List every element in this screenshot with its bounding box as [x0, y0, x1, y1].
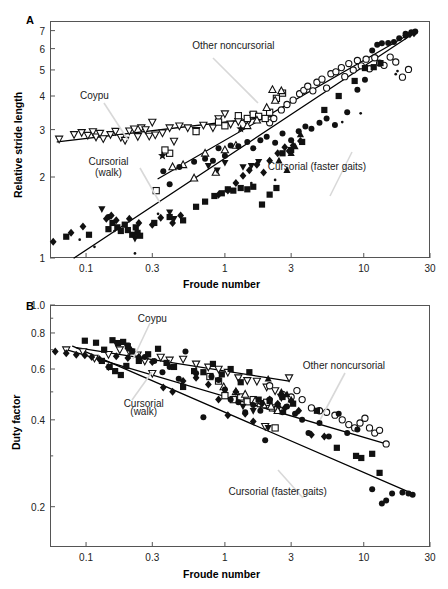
figure-root: A 0.10.31310301234567 Relative stride le… — [0, 0, 448, 589]
panel-b-data-layer — [0, 0, 448, 589]
y-tick-label: 0.6 — [20, 364, 45, 375]
plot-annotation: (walk) — [130, 406, 157, 418]
y-tick-label: 0.4 — [20, 414, 45, 425]
y-tick-label: 1.0 — [20, 300, 45, 311]
x-tick-label: 1 — [222, 552, 228, 563]
plot-annotation: Coypu — [138, 313, 167, 325]
x-tick-label: 10 — [358, 552, 369, 563]
y-tick-label: 0.8 — [20, 327, 45, 338]
x-tick-label: 0.1 — [79, 552, 93, 563]
y-tick-label: 0.2 — [20, 501, 45, 512]
panel-b-y-axis-title: Duty factor — [10, 395, 22, 450]
panel-b-x-axis-title: Froude number — [183, 568, 260, 580]
x-tick-label: 0.3 — [145, 552, 159, 563]
x-tick-label: 3 — [288, 552, 294, 563]
plot-annotation: Cursorial (faster gaits) — [229, 486, 327, 498]
x-tick-label: 30 — [424, 552, 435, 563]
plot-annotation: Other noncursorial — [303, 360, 385, 372]
